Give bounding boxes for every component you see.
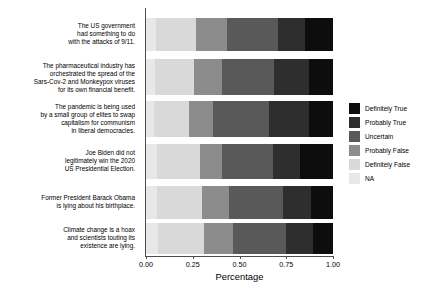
x-axis-tick: [333, 256, 334, 259]
legend: Definitely TrueProbably TrueUncertainPro…: [349, 101, 437, 185]
x-axis-tick-label: 0.25: [173, 260, 213, 269]
bar-segment: [309, 59, 333, 95]
bar-segment: [196, 18, 227, 51]
bar-segment: [233, 223, 286, 254]
bar-segment: [273, 144, 300, 179]
legend-item[interactable]: NA: [349, 171, 437, 185]
legend-item[interactable]: Probably False: [349, 143, 437, 157]
legend-label: Probably False: [365, 147, 409, 154]
legend-label: Probably True: [365, 119, 406, 126]
bar-segment: [227, 18, 278, 51]
bar-row: [146, 223, 333, 254]
legend-item[interactable]: Definitely True: [349, 101, 437, 115]
bar-segment: [202, 186, 229, 219]
bar-row: [146, 101, 333, 137]
legend-item[interactable]: Probably True: [349, 115, 437, 129]
bar-segment: [278, 18, 305, 51]
x-axis-tick: [193, 256, 194, 259]
bar-segment: [146, 18, 156, 51]
legend-swatch: [349, 159, 360, 170]
x-axis-tick: [286, 256, 287, 259]
y-axis-category-labels: The US government had something to do wi…: [0, 8, 140, 256]
bar-segment: [283, 186, 311, 219]
bar-segment: [222, 59, 274, 95]
bar-segment: [154, 101, 189, 137]
bar-segment: [229, 186, 283, 219]
bar-segment: [313, 223, 333, 254]
bar-segment: [146, 101, 154, 137]
x-axis-tick-label: 0.00: [126, 260, 166, 269]
bar-segment: [157, 144, 200, 179]
bar-segment: [146, 223, 158, 254]
bar-row: [146, 59, 333, 95]
legend-label: Definitely True: [365, 105, 407, 112]
bar-segment: [158, 223, 204, 254]
bar-segment: [189, 101, 213, 137]
legend-swatch: [349, 103, 360, 114]
legend-item[interactable]: Uncertain: [349, 129, 437, 143]
bar-segment: [200, 144, 222, 179]
bar-segment: [305, 18, 333, 51]
legend-swatch: [349, 117, 360, 128]
x-axis-tick: [146, 256, 147, 259]
bar-segment: [309, 101, 333, 137]
legend-label: Definitely False: [365, 161, 410, 168]
y-axis-label: The US government had something to do wi…: [0, 22, 135, 46]
x-axis-title: Percentage: [146, 271, 333, 282]
bar-segment: [269, 101, 309, 137]
bar-segment: [300, 144, 333, 179]
legend-swatch: [349, 145, 360, 156]
bar-segment: [156, 18, 196, 51]
bar-segment: [157, 186, 202, 219]
y-axis-label: Former President Barack Obama is lying a…: [0, 194, 135, 210]
legend-swatch: [349, 173, 360, 184]
bar-segment: [204, 223, 233, 254]
bar-row: [146, 144, 333, 179]
bar-segment: [286, 223, 313, 254]
bar-segment: [194, 59, 222, 95]
x-axis-tick-label: 0.50: [220, 260, 260, 269]
y-axis-label: Joe Biden did not legitimately win the 2…: [0, 149, 135, 173]
y-axis-label: Climate change is a hoax and scientists …: [0, 226, 135, 250]
legend-label: Uncertain: [365, 133, 393, 140]
bar-row: [146, 186, 333, 219]
legend-label: NA: [365, 175, 374, 182]
legend-swatch: [349, 131, 360, 142]
bar-segment: [222, 144, 273, 179]
bar-segment: [311, 186, 333, 219]
x-axis-tick-label: 1.00: [313, 260, 353, 269]
y-axis-label: The pandemic is being used by a small gr…: [0, 103, 135, 135]
stacked-bar-chart: The US government had something to do wi…: [0, 0, 438, 290]
y-axis-label: The pharmaceutical industry has orchestr…: [0, 62, 135, 94]
x-axis-tick-label: 0.75: [266, 260, 306, 269]
bar-segment: [146, 144, 157, 179]
legend-item[interactable]: Definitely False: [349, 157, 437, 171]
bar-segment: [155, 59, 194, 95]
bar-segment: [274, 59, 309, 95]
bar-segment: [146, 59, 155, 95]
bar-segment: [146, 186, 157, 219]
plot-area: [146, 8, 333, 256]
bar-row: [146, 18, 333, 51]
x-axis-tick: [240, 256, 241, 259]
bar-segment: [213, 101, 269, 137]
